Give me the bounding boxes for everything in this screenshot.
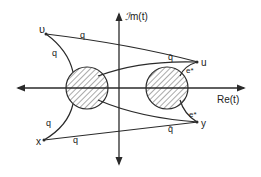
label-imaginary-axis-suffix: m(t)	[130, 11, 148, 22]
label-edge-right-disk-to-u: q̄	[168, 52, 173, 62]
curve-left-disk-to-y	[98, 100, 198, 122]
point-u	[196, 61, 199, 64]
label-real-axis: Re(t)	[217, 94, 239, 105]
point-x	[43, 139, 46, 142]
label-edge-v-to-left-disk: q	[52, 48, 57, 58]
label-edge-left-disk-to-y: q̄	[168, 124, 173, 134]
curve-x-to-right	[44, 122, 198, 140]
label-edge-x-to-left-disk: q	[46, 118, 51, 128]
point-y	[196, 121, 199, 124]
label-edge-v-to-u: q	[80, 30, 85, 40]
label-edge-u-to-right-disk: e*	[186, 66, 194, 75]
curve-v-to-left-disk	[46, 34, 73, 72]
label-point-x: x	[36, 136, 41, 147]
label-point-u: u	[201, 57, 207, 68]
label-imaginary-axis: ℐm(t)	[125, 11, 148, 22]
contour-diagram: υ u x y q q q̄ e* q q q̄ e* Re(t) ℐm(t)	[0, 0, 261, 177]
label-edge-x-to-right: q	[73, 135, 78, 145]
label-edge-y-to-right-disk: e*	[189, 110, 197, 119]
label-point-v: υ	[39, 23, 45, 35]
label-point-y: y	[201, 118, 206, 129]
curve-v-to-u	[46, 34, 198, 62]
